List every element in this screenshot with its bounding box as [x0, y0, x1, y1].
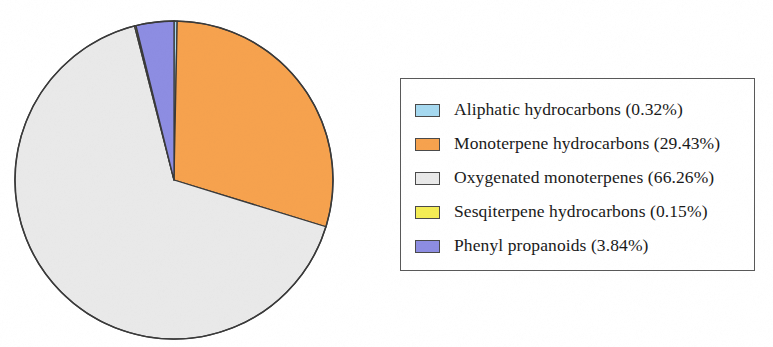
legend-swatch-icon	[415, 172, 440, 185]
legend-item-label: Monoterpene hydrocarbons (29.43%)	[454, 135, 720, 153]
legend-item-label: Sesqiterpene hydrocarbons (0.15%)	[454, 203, 708, 221]
legend-swatch-icon	[415, 240, 440, 253]
legend-item: Phenyl propanoids (3.84%)	[415, 229, 754, 263]
legend-swatch-icon	[415, 138, 440, 151]
legend-item-label: Phenyl propanoids (3.84%)	[454, 237, 649, 255]
pie-chart-area	[0, 0, 360, 347]
legend-item-label: Aliphatic hydrocarbons (0.32%)	[454, 101, 683, 119]
legend-swatch-icon	[415, 104, 440, 117]
legend-item: Aliphatic hydrocarbons (0.32%)	[415, 93, 754, 127]
legend-item: Monoterpene hydrocarbons (29.43%)	[415, 127, 754, 161]
pie-chart-svg	[0, 0, 360, 347]
legend-item: Sesqiterpene hydrocarbons (0.15%)	[415, 195, 754, 229]
legend-swatch-icon	[415, 206, 440, 219]
legend-item: Oxygenated monoterpenes (66.26%)	[415, 161, 754, 195]
legend-item-label: Oxygenated monoterpenes (66.26%)	[454, 169, 714, 187]
chart-legend: Aliphatic hydrocarbons (0.32%) Monoterpe…	[400, 78, 755, 271]
